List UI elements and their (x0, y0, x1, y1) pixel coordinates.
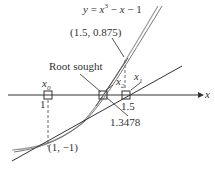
tick-1-5-label: 1.5 (121, 101, 135, 112)
tangent-line-x0 (12, 66, 182, 161)
leader-upper-point (112, 38, 124, 57)
x2-label: x2 (116, 76, 124, 90)
tick-1-label: 1 (40, 99, 46, 110)
equation-label: y = x3 − x − 1 (83, 3, 142, 15)
lower-point-label: (1, −1) (48, 142, 78, 153)
x1-label: x1 (134, 71, 142, 85)
root-sought-label: Root sought (49, 61, 102, 72)
root-value-label: 1.3478 (110, 117, 140, 128)
upper-point-label: (1.5, 0.875) (70, 27, 121, 38)
x0-label: x0 (42, 78, 50, 92)
x-axis-arrow-icon (198, 92, 204, 98)
x-axis-label: x (205, 89, 210, 100)
leader-root-sought (80, 74, 101, 92)
